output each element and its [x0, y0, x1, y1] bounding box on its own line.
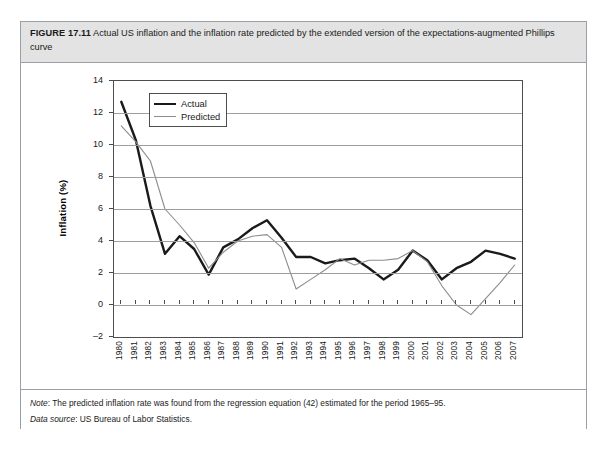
x-axis-tick-label: 1995	[334, 341, 343, 360]
x-axis-tick-label: 1983	[159, 341, 168, 360]
gridline	[114, 209, 522, 210]
figure-notes: Note: The predicted inflation rate was f…	[21, 390, 586, 429]
x-axis-tick-label: 1998	[378, 341, 387, 360]
x-axis-tick	[499, 300, 500, 304]
x-axis-tick-label: 2006	[494, 341, 503, 360]
x-axis-tick-label: 1986	[203, 341, 212, 360]
x-axis-tick	[120, 300, 121, 304]
series-line-actual	[121, 102, 514, 280]
x-axis-tick	[441, 300, 442, 304]
x-axis-tick-label: 1997	[363, 341, 372, 360]
series-line-predicted	[121, 126, 514, 315]
x-axis-tick	[485, 300, 486, 304]
x-axis-tick	[266, 300, 267, 304]
note-lead: Note	[30, 398, 48, 408]
x-axis-tick	[164, 300, 165, 304]
x-axis-tick	[135, 300, 136, 304]
gridline	[114, 241, 522, 242]
chart-legend: Actual Predicted	[149, 93, 227, 127]
y-axis-tick	[109, 80, 113, 81]
x-axis-tick	[470, 300, 471, 304]
x-axis-tick-label: 2001	[421, 341, 430, 360]
x-axis-tick	[222, 300, 223, 304]
y-axis-tick-label: 12	[77, 107, 103, 117]
figure-container: FIGURE 17.11 Actual US inflation and the…	[20, 21, 587, 429]
x-axis-tick	[295, 300, 296, 304]
x-axis-tick	[368, 300, 369, 304]
y-axis-tick-label: 2	[77, 267, 103, 277]
figure-label: FIGURE 17.11	[30, 28, 91, 38]
x-axis-tick	[324, 300, 325, 304]
x-axis-tick-label: 1984	[174, 341, 183, 360]
legend-label-predicted: Predicted	[181, 111, 220, 123]
y-axis-tick-label: 4	[77, 235, 103, 245]
x-axis-tick-label: 1999	[392, 341, 401, 360]
x-axis-tick-label: 2007	[509, 341, 518, 360]
y-axis-tick-label: –2	[77, 331, 103, 341]
gridline	[114, 145, 522, 146]
y-axis-tick-label: 6	[77, 203, 103, 213]
x-axis-tick	[455, 300, 456, 304]
y-axis-title: Inflation (%)	[57, 180, 68, 237]
x-axis-tick-label: 1991	[276, 341, 285, 360]
x-axis-tick-label: 1989	[246, 341, 255, 360]
source-lead: Data source	[30, 414, 75, 424]
legend-label-actual: Actual	[181, 98, 207, 110]
y-axis-tick-label: 0	[77, 299, 103, 309]
x-axis-tick	[412, 300, 413, 304]
x-axis-tick-label: 1990	[261, 341, 270, 360]
legend-item-actual: Actual	[154, 97, 220, 110]
x-axis-tick	[179, 300, 180, 304]
x-axis-tick	[281, 300, 282, 304]
x-axis-tick	[426, 300, 427, 304]
x-axis-tick-label: 2004	[465, 341, 474, 360]
x-axis-tick	[339, 300, 340, 304]
x-axis-tick	[383, 300, 384, 304]
y-axis-tick-label: 10	[77, 139, 103, 149]
legend-swatch-predicted-icon	[154, 116, 176, 117]
y-axis-tick-label: 8	[77, 171, 103, 181]
chart-panel: Inflation (%) Year Actual Predicted –202…	[21, 63, 586, 390]
x-axis-tick	[353, 300, 354, 304]
y-axis-tick	[109, 240, 113, 241]
gridline	[114, 305, 522, 306]
x-axis-tick-label: 1981	[130, 341, 139, 360]
source-text: : US Bureau of Labor Statistics.	[75, 414, 192, 424]
x-axis-tick	[514, 300, 515, 304]
x-axis-tick-label: 1988	[232, 341, 241, 360]
gridline	[114, 177, 522, 178]
x-axis-tick	[397, 300, 398, 304]
x-axis-tick-label: 1994	[319, 341, 328, 360]
x-axis-tick-label: 2002	[436, 341, 445, 360]
y-axis-tick	[109, 144, 113, 145]
source-line: Data source: US Bureau of Labor Statisti…	[30, 411, 577, 427]
x-axis-tick	[310, 300, 311, 304]
y-axis-tick	[109, 336, 113, 337]
legend-swatch-actual-icon	[154, 103, 176, 105]
x-axis-tick	[193, 300, 194, 304]
x-axis-tick-label: 1980	[115, 341, 124, 360]
legend-item-predicted: Predicted	[154, 110, 220, 123]
figure-caption-text: Actual US inflation and the inflation ra…	[30, 28, 555, 52]
y-axis-tick	[109, 176, 113, 177]
x-axis-tick-label: 2000	[407, 341, 416, 360]
x-axis-tick-label: 1985	[188, 341, 197, 360]
y-axis-tick-label: 14	[77, 75, 103, 85]
x-axis-tick-label: 1996	[348, 341, 357, 360]
x-axis-tick-label: 2005	[480, 341, 489, 360]
y-axis-tick	[109, 304, 113, 305]
gridline	[114, 273, 522, 274]
plot-area: Inflation (%) Year Actual Predicted –202…	[21, 63, 586, 389]
note-line: Note: The predicted inflation rate was f…	[30, 395, 577, 411]
y-axis-tick	[109, 208, 113, 209]
x-axis-tick-label: 1982	[144, 341, 153, 360]
x-axis-tick-label: 2003	[450, 341, 459, 360]
x-axis-tick-label: 1992	[290, 341, 299, 360]
x-axis-tick	[251, 300, 252, 304]
x-axis-tick	[208, 300, 209, 304]
note-text: : The predicted inflation rate was found…	[48, 398, 446, 408]
y-axis-tick	[109, 112, 113, 113]
x-axis-tick-label: 1993	[305, 341, 314, 360]
y-axis-tick	[109, 272, 113, 273]
x-axis-tick-label: 1987	[217, 341, 226, 360]
